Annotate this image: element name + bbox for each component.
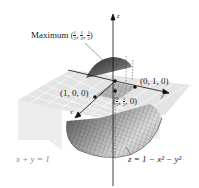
point-label-0-1-0: (0, 1, 0) — [140, 77, 169, 86]
point-1-0-0 — [93, 95, 97, 99]
plane-label: x + y = 1 — [16, 155, 50, 164]
point-origin — [113, 79, 117, 83]
point-0-1-0 — [133, 85, 137, 89]
point-half-half-0 — [113, 89, 117, 93]
z-axis-arrow — [111, 14, 115, 20]
surface-label: z = 1 − x² − y² — [128, 155, 181, 164]
paraboloid-cap-maximum — [86, 57, 132, 78]
maximum-label: Maximum (12, 12, 12) — [31, 30, 93, 41]
maximum-prefix: Maximum — [31, 30, 69, 40]
point-label-half-half-0: (12, 12, 0) — [113, 96, 137, 107]
x-axis-label: x — [70, 109, 73, 115]
y-axis-label: y — [161, 93, 164, 99]
z-axis-label: z — [117, 13, 119, 19]
point-label-1-0-0: (1, 0, 0) — [60, 89, 89, 98]
